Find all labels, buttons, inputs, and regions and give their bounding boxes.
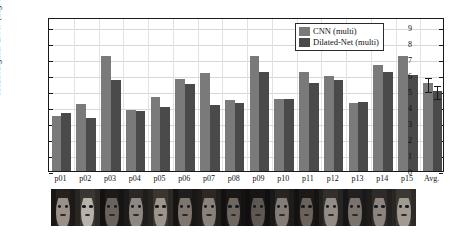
face-thumbnail-p15 bbox=[392, 189, 416, 226]
bar-p09-cnn bbox=[250, 56, 260, 171]
error-cap-cnn-upper bbox=[425, 78, 432, 79]
bar-p03-dilated-net bbox=[111, 80, 121, 171]
error-cap-cnn-lower bbox=[425, 92, 432, 93]
x-tick-label-p14: p14 bbox=[376, 174, 388, 183]
bar-p10-dilated-net bbox=[284, 99, 294, 171]
x-tick-label-p03: p03 bbox=[104, 174, 116, 183]
x-tick-label-p02: p02 bbox=[79, 174, 91, 183]
face-thumbnail-strip bbox=[51, 189, 416, 226]
x-tick-label-p05: p05 bbox=[153, 174, 165, 183]
face-thumbnail-p09 bbox=[246, 189, 270, 226]
bar-p04-cnn bbox=[126, 110, 136, 171]
x-tick-label-p04: p04 bbox=[129, 174, 141, 183]
x-axis-tick-labels: p01p02p03p04p05p06p07p08p09p10p11p12p13p… bbox=[48, 174, 444, 187]
x-tick-label-p09: p09 bbox=[252, 174, 264, 183]
bar-p01-dilated-net bbox=[61, 113, 71, 171]
x-tick-label-p07: p07 bbox=[203, 174, 215, 183]
bar-p03-cnn bbox=[101, 56, 111, 171]
y-tick-label-2: 2 bbox=[408, 135, 412, 144]
y-tick-label-6: 6 bbox=[408, 71, 412, 80]
x-tick-label-p01: p01 bbox=[54, 174, 66, 183]
x-tick-label-p12: p12 bbox=[327, 174, 339, 183]
bar-p12-cnn bbox=[324, 76, 334, 171]
chart-legend: CNN (multi) Dilated-Net (multi) bbox=[295, 23, 384, 51]
x-tick-label-p08: p08 bbox=[228, 174, 240, 183]
face-thumbnail-p08 bbox=[221, 189, 245, 226]
bar-p01-cnn bbox=[52, 116, 62, 171]
x-tick-label-p10: p10 bbox=[277, 174, 289, 183]
face-thumbnail-p10 bbox=[270, 189, 294, 226]
legend-entry-cnn: CNN (multi) bbox=[299, 26, 379, 37]
bar-avg-cnn bbox=[423, 83, 433, 171]
error-cap-dilated-net-lower bbox=[434, 99, 441, 100]
y-tick-label-1: 1 bbox=[408, 151, 412, 160]
legend-label-dilated-net: Dilated-Net (multi) bbox=[313, 37, 379, 48]
figure-root: CNN (multi) Dilated-Net (multi) 01234567… bbox=[0, 0, 463, 233]
plot-area: CNN (multi) Dilated-Net (multi) bbox=[48, 18, 444, 172]
x-tick-label-p06: p06 bbox=[178, 174, 190, 183]
error-cap-dilated-net-upper bbox=[434, 86, 441, 87]
bar-p07-cnn bbox=[200, 73, 210, 171]
y-tick-label-4: 4 bbox=[408, 103, 412, 112]
x-tick-label-p13: p13 bbox=[351, 174, 363, 183]
bar-p06-dilated-net bbox=[185, 84, 195, 171]
bar-p13-cnn bbox=[349, 103, 359, 171]
bar-p05-dilated-net bbox=[160, 107, 170, 171]
face-thumbnail-p02 bbox=[75, 189, 99, 226]
x-tick-label-p11: p11 bbox=[302, 174, 314, 183]
y-tick-label-5: 5 bbox=[408, 87, 412, 96]
bar-p04-dilated-net bbox=[136, 111, 146, 171]
y-axis-title: Mean Angular Error (degree) bbox=[0, 0, 2, 95]
face-thumbnail-p01 bbox=[51, 189, 75, 226]
x-tick-label-p15: p15 bbox=[401, 174, 413, 183]
face-thumbnail-p13 bbox=[343, 189, 367, 226]
y-tick-label-3: 3 bbox=[408, 119, 412, 128]
error-bar-dilated-net bbox=[437, 86, 438, 99]
bar-p14-cnn bbox=[373, 65, 383, 171]
bar-p11-dilated-net bbox=[309, 83, 319, 171]
bar-p08-dilated-net bbox=[235, 103, 245, 171]
face-thumbnail-p04 bbox=[124, 189, 148, 226]
y-tick-label-8: 8 bbox=[408, 39, 412, 48]
bar-p14-dilated-net bbox=[383, 72, 393, 171]
x-tick-label-avg: Avg. bbox=[424, 174, 439, 183]
face-thumbnail-p12 bbox=[319, 189, 343, 226]
bar-p10-cnn bbox=[274, 99, 284, 171]
bars-layer bbox=[49, 19, 443, 171]
y-tick-label-9: 9 bbox=[408, 23, 412, 32]
bar-avg-dilated-net bbox=[433, 91, 443, 171]
face-thumbnail-p06 bbox=[173, 189, 197, 226]
bar-p11-cnn bbox=[299, 72, 309, 171]
legend-swatch-cnn bbox=[299, 27, 310, 36]
face-thumbnail-p14 bbox=[367, 189, 391, 226]
face-thumbnail-p11 bbox=[294, 189, 318, 226]
bar-p02-cnn bbox=[76, 104, 86, 171]
y-tick-label-7: 7 bbox=[408, 55, 412, 64]
face-thumbnail-p05 bbox=[148, 189, 172, 226]
bar-p08-cnn bbox=[225, 100, 235, 171]
bar-p15-cnn bbox=[398, 56, 408, 172]
legend-entry-dilated-net: Dilated-Net (multi) bbox=[299, 37, 379, 48]
legend-swatch-dilated-net bbox=[299, 38, 310, 47]
bar-p06-cnn bbox=[175, 79, 185, 171]
face-thumbnail-p03 bbox=[100, 189, 124, 226]
bar-p05-cnn bbox=[151, 97, 161, 171]
legend-label-cnn: CNN (multi) bbox=[313, 26, 357, 37]
face-thumbnail-p07 bbox=[197, 189, 221, 226]
bar-p02-dilated-net bbox=[86, 118, 96, 171]
error-bar-cnn bbox=[428, 78, 429, 92]
bar-p12-dilated-net bbox=[334, 80, 344, 171]
bar-p07-dilated-net bbox=[210, 105, 220, 171]
bar-p09-dilated-net bbox=[259, 72, 269, 171]
bar-p13-dilated-net bbox=[358, 102, 368, 171]
